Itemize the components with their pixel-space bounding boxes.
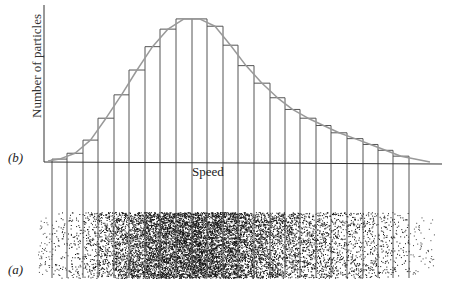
particle-dots	[52, 212, 410, 279]
panel-b-label: (b)	[8, 150, 23, 166]
x-axis-label: Speed	[192, 164, 224, 180]
x-axis	[44, 162, 442, 164]
y-axis-label: Number of particles	[29, 11, 45, 121]
speed-histogram	[0, 0, 449, 291]
panel-a-label: (a)	[8, 262, 23, 278]
maxwell-distribution-curve	[48, 19, 430, 162]
